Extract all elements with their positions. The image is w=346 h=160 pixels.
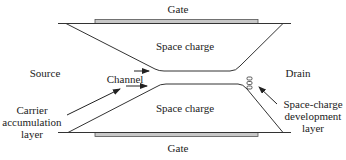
dev-label-line3: layer <box>280 122 346 134</box>
dev-label-line1: Space-charge <box>280 98 346 110</box>
gate-bottom-electrode <box>95 133 258 137</box>
space-charge-bottom-label: Space charge <box>145 102 225 114</box>
source-label: Source <box>25 67 65 79</box>
space-charge-dev-arrow-icon <box>259 87 277 104</box>
carrier-accumulation-label: Carrier accumulation layer <box>0 104 64 140</box>
gate-top-electrode <box>95 20 258 24</box>
dev-label-line2: development <box>280 110 346 122</box>
space-charge-top-label: Space charge <box>145 40 225 52</box>
gate-top-label: Gate <box>160 3 196 15</box>
carrier-particles-icon <box>247 77 252 89</box>
carrier-layer-arrow-icon <box>67 89 120 115</box>
gate-bottom-label: Gate <box>160 142 196 154</box>
carrier-label-line1: Carrier <box>0 104 64 116</box>
mosfet-channel-diagram: Gate Space charge Source Drain Channel S… <box>0 0 346 160</box>
carrier-label-line3: layer <box>0 128 64 140</box>
drain-label: Drain <box>278 67 318 79</box>
space-charge-development-label: Space-charge development layer <box>280 98 346 134</box>
channel-label: Channel <box>100 73 150 85</box>
carrier-label-line2: accumulation <box>0 116 64 128</box>
